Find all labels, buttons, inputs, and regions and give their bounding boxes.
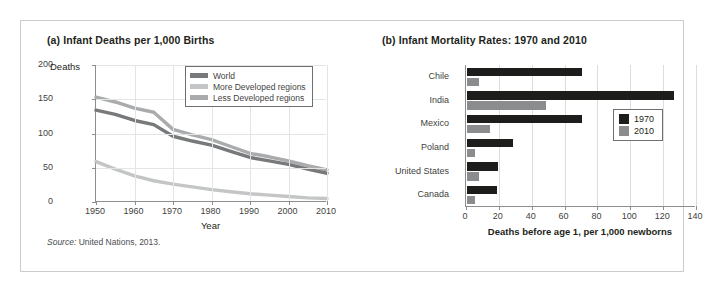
panel-b-title: (b) Infant Mortality Rates: 1970 and 201… bbox=[382, 34, 587, 46]
x-axis-tick-mark bbox=[96, 201, 97, 205]
source-value: United Nations, 2013. bbox=[76, 237, 160, 247]
x-axis-tick-mark bbox=[565, 206, 566, 210]
panel-b-legend: 19702010 bbox=[613, 109, 663, 141]
x-axis-tick-mark bbox=[696, 206, 697, 210]
source-label: Source: bbox=[47, 237, 76, 247]
gridline-vertical bbox=[565, 65, 566, 206]
legend-swatch bbox=[190, 95, 208, 100]
panel-a-title: (a) Infant Deaths per 1,000 Births bbox=[47, 34, 214, 46]
x-axis-tick-label: 20 bbox=[480, 211, 516, 221]
x-axis-tick-label: 80 bbox=[578, 211, 614, 221]
x-axis-tick-mark bbox=[499, 206, 500, 210]
bar bbox=[467, 68, 582, 77]
legend-item: Less Developed regions bbox=[190, 92, 306, 103]
gridline-vertical bbox=[696, 65, 697, 206]
x-axis-tick-label: 40 bbox=[513, 211, 549, 221]
panel-a-x-axis-label: Year bbox=[95, 220, 326, 231]
legend-item: World bbox=[190, 70, 306, 81]
x-axis-tick-label: 1960 bbox=[114, 206, 154, 216]
bar bbox=[467, 196, 475, 205]
x-axis-tick-mark bbox=[327, 201, 328, 205]
x-axis-tick-mark bbox=[289, 201, 290, 205]
bar bbox=[467, 172, 479, 181]
bar bbox=[467, 186, 497, 195]
x-axis-tick-label: 0 bbox=[447, 211, 483, 221]
gridline-vertical bbox=[663, 65, 664, 206]
x-axis-tick-mark bbox=[212, 201, 213, 205]
x-axis-tick-mark bbox=[597, 206, 598, 210]
bar bbox=[467, 125, 490, 134]
category-label: Poland bbox=[339, 142, 449, 152]
legend-item: More Developed regions bbox=[190, 81, 306, 92]
source-note: Source: United Nations, 2013. bbox=[47, 237, 160, 247]
y-axis-tick-mark bbox=[92, 168, 96, 169]
gridline-vertical bbox=[532, 65, 533, 206]
figure-frame: (a) Infant Deaths per 1,000 Births Death… bbox=[20, 20, 684, 272]
x-axis-tick-mark bbox=[630, 206, 631, 210]
bar bbox=[467, 101, 546, 110]
y-axis-tick-label: 200 bbox=[13, 59, 53, 69]
x-axis-tick-mark bbox=[135, 201, 136, 205]
y-axis-tick-mark bbox=[92, 99, 96, 100]
gridline-vertical bbox=[597, 65, 598, 206]
panel-a-line-chart: (a) Infant Deaths per 1,000 Births Death… bbox=[21, 21, 361, 273]
x-axis-tick-label: 60 bbox=[546, 211, 582, 221]
legend-swatch bbox=[190, 73, 208, 78]
legend-label: World bbox=[213, 71, 235, 81]
y-axis-tick-mark bbox=[92, 65, 96, 66]
bar bbox=[467, 162, 498, 171]
gridline-horizontal bbox=[96, 134, 326, 135]
bar bbox=[467, 149, 475, 158]
x-axis-tick-label: 100 bbox=[611, 211, 647, 221]
category-label: Chile bbox=[339, 71, 449, 81]
x-axis-tick-label: 2010 bbox=[306, 206, 346, 216]
gridline-vertical bbox=[327, 65, 328, 201]
bar bbox=[467, 91, 674, 100]
y-axis-tick-label: 0 bbox=[13, 196, 53, 206]
bar bbox=[467, 115, 582, 124]
x-axis-tick-mark bbox=[532, 206, 533, 210]
panel-b-x-axis-label: Deaths before age 1, per 1,000 newborns bbox=[455, 226, 705, 237]
x-axis-tick-label: 1990 bbox=[229, 206, 269, 216]
y-axis-tick-label: 50 bbox=[13, 162, 53, 172]
x-axis-tick-label: 140 bbox=[677, 211, 708, 221]
category-label: Mexico bbox=[339, 118, 449, 128]
x-axis-tick-mark bbox=[173, 201, 174, 205]
y-axis-tick-mark bbox=[92, 134, 96, 135]
legend-swatch bbox=[619, 126, 629, 136]
legend-swatch bbox=[190, 84, 208, 89]
x-axis-tick-label: 2000 bbox=[268, 206, 308, 216]
category-label: Canada bbox=[339, 189, 449, 199]
category-label: India bbox=[339, 95, 449, 105]
x-axis-tick-label: 120 bbox=[644, 211, 680, 221]
gridline-vertical bbox=[499, 65, 500, 206]
x-axis-tick-label: 1970 bbox=[152, 206, 192, 216]
y-axis-tick-label: 150 bbox=[13, 93, 53, 103]
legend-label: 2010 bbox=[634, 126, 654, 136]
y-axis-tick-label: 100 bbox=[13, 128, 53, 138]
bar bbox=[467, 139, 513, 148]
x-axis-tick-label: 1980 bbox=[191, 206, 231, 216]
x-axis-tick-mark bbox=[663, 206, 664, 210]
category-label: United States bbox=[339, 166, 449, 176]
legend-item: 1970 bbox=[619, 113, 654, 125]
legend-swatch bbox=[619, 114, 629, 124]
bar bbox=[467, 78, 479, 87]
gridline-horizontal bbox=[96, 168, 326, 169]
x-axis-tick-mark bbox=[250, 201, 251, 205]
legend-label: Less Developed regions bbox=[213, 93, 304, 103]
panel-a-y-axis-label: Deaths bbox=[50, 61, 80, 72]
legend-label: 1970 bbox=[634, 114, 654, 124]
x-axis-tick-mark bbox=[466, 206, 467, 210]
legend-label: More Developed regions bbox=[213, 82, 306, 92]
legend-item: 2010 bbox=[619, 125, 654, 137]
panel-b-bar-chart: (b) Infant Mortality Rates: 1970 and 201… bbox=[361, 21, 685, 273]
x-axis-tick-label: 1950 bbox=[75, 206, 115, 216]
panel-a-legend: WorldMore Developed regionsLess Develope… bbox=[185, 66, 313, 107]
